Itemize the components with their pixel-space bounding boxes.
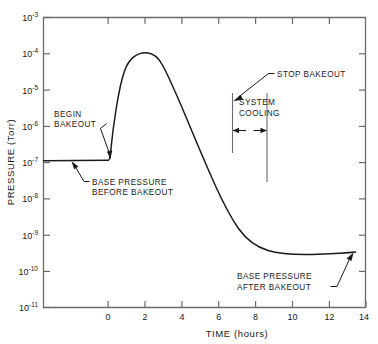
x-tick-label-0: 0 bbox=[106, 312, 111, 322]
begin-bakeout-label-line1: BEGIN bbox=[54, 110, 82, 119]
begin-bakeout-label-line2: BAKEOUT bbox=[54, 120, 96, 129]
base-pressure-before-label-line1: BASE PRESSURE bbox=[92, 178, 167, 187]
x-axis-title: TIME (hours) bbox=[206, 328, 269, 339]
x-tick-label-7: 14 bbox=[359, 312, 369, 322]
y-axis-title: PRESSURE (Torr) bbox=[5, 119, 16, 206]
x-tick-label-4: 8 bbox=[253, 312, 258, 322]
x-tick-label-2: 4 bbox=[179, 312, 184, 322]
x-tick-label-1: 2 bbox=[142, 312, 147, 322]
stop-bakeout-label: STOP BAKEOUT bbox=[277, 70, 346, 79]
chart-background bbox=[0, 0, 378, 344]
system-cooling-label-line1: SYSTEM bbox=[239, 98, 275, 107]
chart-svg: 10-3 10-4 10-5 10-6 10-7 10-8 10-9 10-10 bbox=[0, 0, 378, 344]
base-pressure-after-label-line2: AFTER BAKEOUT bbox=[237, 283, 311, 292]
system-cooling-label-line2: COOLING bbox=[239, 109, 280, 118]
base-pressure-before-label-line2: BEFORE BAKEOUT bbox=[92, 188, 173, 197]
pressure-vs-time-chart: 10-3 10-4 10-5 10-6 10-7 10-8 10-9 10-10 bbox=[0, 0, 378, 344]
x-tick-label-6: 12 bbox=[324, 312, 334, 322]
base-pressure-after-label-line1: BASE PRESSURE bbox=[237, 272, 312, 281]
x-tick-label-5: 10 bbox=[287, 312, 297, 322]
x-tick-label-3: 6 bbox=[216, 312, 221, 322]
